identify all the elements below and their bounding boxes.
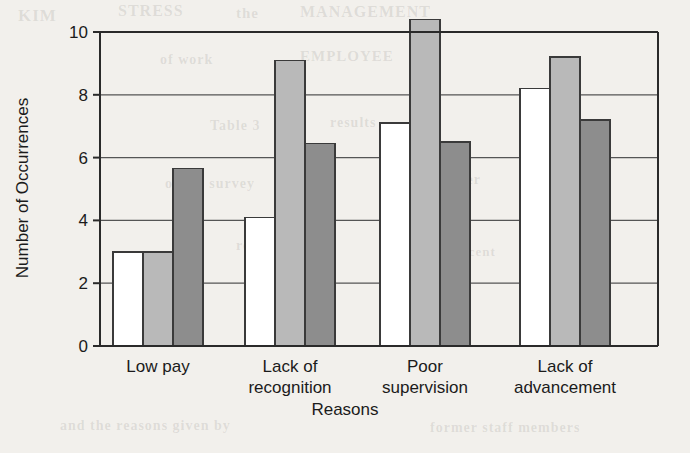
x-category-label: Poor [407,357,443,376]
bar [305,143,335,346]
bar [440,142,470,346]
y-tick-label: 10 [69,23,88,42]
y-tick-label: 8 [79,86,88,105]
bar [520,89,550,346]
y-tick-label: 6 [79,149,88,168]
bar [380,123,410,346]
x-axis-title: Reasons [311,400,378,419]
y-tick-label: 4 [79,211,88,230]
x-category-labels-group: Low payLack ofrecognitionPoorsupervision… [126,357,616,397]
bar [410,19,440,346]
x-category-label: recognition [248,378,331,397]
bar [245,217,275,346]
x-category-label: supervision [382,378,468,397]
y-tick-label: 2 [79,274,88,293]
bar-chart-figure: 0246810 Low payLack ofrecognitionPoorsup… [0,0,690,453]
x-category-label: Lack of [263,357,318,376]
bar [113,252,143,346]
bar-chart-svg: 0246810 Low payLack ofrecognitionPoorsup… [0,0,690,453]
bar [173,169,203,346]
x-category-label: Lack of [538,357,593,376]
y-tick-label: 0 [79,337,88,356]
y-axis-title: Number of Occurrences [13,98,32,278]
y-tick-labels-group: 0246810 [69,23,88,356]
x-category-label: Low pay [126,357,190,376]
x-category-label: advancement [514,378,616,397]
bar [275,60,305,346]
bar [550,57,580,346]
bar [143,252,173,346]
bars-group [113,19,610,346]
bar [580,120,610,346]
